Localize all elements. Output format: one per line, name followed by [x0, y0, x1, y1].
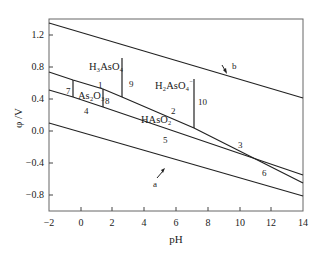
y-tick-label: 0.8: [32, 61, 45, 72]
label-b: b: [232, 61, 237, 71]
y-axis-ticks: [49, 35, 53, 195]
x-tick-label: 2: [110, 217, 115, 228]
species-h2aso4-charge: ⁻: [189, 79, 193, 87]
arrow-a: [157, 171, 163, 178]
x-tick-label: 12: [266, 217, 276, 228]
x-tick-label: 10: [235, 217, 245, 228]
label-10: 10: [198, 97, 208, 107]
label-6: 6: [262, 168, 267, 178]
x-tick-label: 6: [174, 217, 179, 228]
x-tick-label: 0: [79, 217, 84, 228]
species-h2aso4-formula: H₂AsO₄: [155, 80, 189, 91]
y-tick-label: −0.8: [26, 189, 44, 200]
label-4: 4: [84, 106, 89, 116]
label-a: a: [153, 179, 157, 189]
species-h3aso4: H₃AsO₄: [89, 61, 123, 72]
species-haso2: HAsO₂: [141, 114, 172, 125]
label-7: 7: [66, 86, 71, 96]
x-tick-label: 4: [142, 217, 147, 228]
y-tick-labels: 1.2 0.8 0.4 0.0 −0.4 −0.8: [26, 29, 44, 200]
y-tick-label: −0.4: [26, 157, 44, 168]
species-labels: H₃AsO₄ H₂AsO₄⁻ As₂O₃ HAsO₂: [78, 61, 193, 125]
pourbaix-diagram: −2 0 2 4 6 8 10 12 14 1.2 0.8 0.4 0.0 −0…: [0, 0, 322, 258]
label-5: 5: [163, 135, 168, 145]
arrow-b-head: [223, 68, 227, 74]
y-tick-label: 0.4: [32, 93, 45, 104]
y-tick-label: 0.0: [32, 125, 45, 136]
x-axis-title: pH: [169, 233, 183, 245]
species-h2aso4: H₂AsO₄⁻: [155, 79, 193, 91]
x-tick-label: 14: [298, 217, 308, 228]
label-9: 9: [129, 79, 134, 89]
label-8: 8: [105, 96, 110, 106]
x-tick-label: −2: [44, 217, 55, 228]
species-as2o3: As₂O₃: [78, 90, 105, 101]
line-a: [49, 123, 303, 196]
label-3: 3: [238, 140, 243, 150]
y-axis-title: φ /V: [12, 108, 24, 128]
y-tick-label: 1.2: [32, 29, 45, 40]
label-1: 1: [98, 80, 103, 90]
line-4-5-6: [49, 90, 303, 175]
x-axis-ticks: [81, 207, 271, 211]
x-tick-label: 8: [206, 217, 211, 228]
label-2: 2: [171, 106, 176, 116]
x-tick-labels: −2 0 2 4 6 8 10 12 14: [44, 217, 308, 228]
